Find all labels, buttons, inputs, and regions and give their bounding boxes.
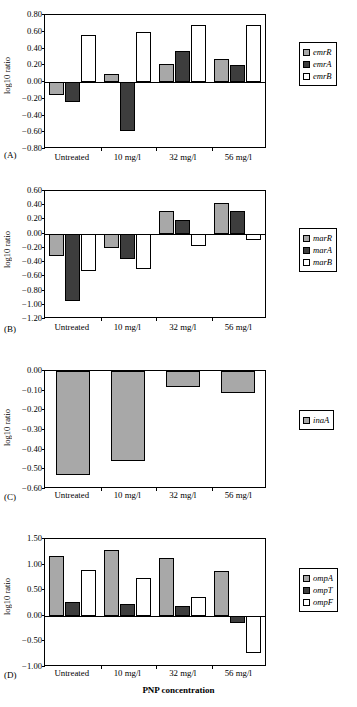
legend-label: ompF bbox=[313, 597, 333, 607]
legend: emrRemrAemrB bbox=[299, 42, 337, 86]
bar bbox=[65, 234, 80, 302]
y-tick-label: 0.40 bbox=[27, 199, 42, 209]
y-tick-mark bbox=[42, 131, 45, 132]
bar-group bbox=[45, 539, 100, 665]
y-tick-label: 0.20 bbox=[27, 59, 42, 69]
y-tick-label: −0.60 bbox=[22, 483, 42, 493]
y-tick-mark bbox=[42, 48, 45, 49]
legend-label: emrR bbox=[313, 47, 332, 57]
y-tick-mark bbox=[42, 449, 45, 450]
y-tick-mark bbox=[42, 615, 45, 616]
legend-item: marR bbox=[303, 232, 332, 244]
y-tick-label: −0.60 bbox=[22, 270, 42, 280]
y-tick-mark bbox=[42, 247, 45, 248]
chart-panel-c: log10 ratio0.00−0.10−0.20−0.30−0.40−0.50… bbox=[0, 356, 357, 524]
legend-item: ompT bbox=[303, 584, 333, 596]
y-tick-mark bbox=[42, 218, 45, 219]
legend-swatch-icon bbox=[303, 417, 310, 424]
plot-frame bbox=[44, 14, 266, 148]
legend-label: ompA bbox=[313, 573, 333, 583]
x-tick-label: Untreated bbox=[44, 668, 100, 678]
panel-letter: (C) bbox=[4, 492, 16, 502]
legend-label: marB bbox=[313, 257, 332, 267]
legend-item: emrR bbox=[303, 46, 332, 58]
x-tick-mark bbox=[101, 317, 102, 321]
y-tick-label: 0.00 bbox=[27, 365, 42, 375]
y-tick-label: −1.00 bbox=[22, 661, 42, 671]
x-tick-label: 56 mg/l bbox=[211, 322, 267, 332]
plot-frame bbox=[44, 538, 266, 666]
y-tick-mark bbox=[42, 429, 45, 430]
y-tick-mark bbox=[42, 370, 45, 371]
y-tick-label: −0.50 bbox=[22, 463, 42, 473]
y-tick-mark bbox=[42, 666, 45, 667]
x-tick-label: 56 mg/l bbox=[211, 152, 267, 162]
y-tick-label: −0.20 bbox=[22, 242, 42, 252]
x-axis-categories: Untreated10 mg/l32 mg/l56 mg/l bbox=[44, 322, 266, 332]
y-tick-label: −0.50 bbox=[22, 635, 42, 645]
y-tick-label: 0.00 bbox=[27, 610, 42, 620]
bar-group bbox=[45, 371, 100, 487]
legend-item: ompA bbox=[303, 572, 333, 584]
legend-label: marR bbox=[313, 233, 332, 243]
y-tick-label: −0.30 bbox=[22, 424, 42, 434]
bar bbox=[120, 82, 135, 131]
y-axis-ticks: 1.501.000.500.00−0.50−1.00 bbox=[8, 538, 44, 666]
y-tick-label: 1.00 bbox=[27, 559, 42, 569]
legend-label: inaA bbox=[313, 415, 329, 425]
y-tick-label: 0.60 bbox=[27, 26, 42, 36]
bar bbox=[159, 64, 174, 82]
y-tick-label: −0.40 bbox=[22, 110, 42, 120]
x-tick-mark bbox=[212, 317, 213, 321]
bar-group bbox=[155, 371, 210, 487]
x-axis-categories: Untreated10 mg/l32 mg/l56 mg/l bbox=[44, 152, 266, 162]
bar bbox=[65, 82, 80, 102]
x-tick-label: 10 mg/l bbox=[100, 490, 156, 500]
plot-area bbox=[44, 370, 266, 488]
bar bbox=[136, 234, 151, 270]
y-tick-label: 0.60 bbox=[27, 185, 42, 195]
x-tick-label: 10 mg/l bbox=[100, 152, 156, 162]
y-tick-mark bbox=[42, 409, 45, 410]
bar bbox=[65, 602, 80, 616]
y-tick-label: 1.50 bbox=[27, 533, 42, 543]
y-tick-label: −0.60 bbox=[22, 126, 42, 136]
bar bbox=[175, 51, 190, 82]
legend-item: emrA bbox=[303, 58, 332, 70]
x-tick-mark bbox=[156, 317, 157, 321]
y-tick-mark bbox=[42, 589, 45, 590]
bar-group bbox=[210, 539, 265, 665]
bar bbox=[159, 211, 174, 234]
bar-group bbox=[100, 15, 155, 147]
bar-group bbox=[155, 191, 210, 317]
bar-groups bbox=[45, 191, 265, 317]
bar bbox=[159, 558, 174, 616]
x-tick-mark bbox=[212, 147, 213, 151]
x-tick-label: 32 mg/l bbox=[155, 668, 211, 678]
bar bbox=[214, 203, 229, 234]
legend: ompAompTompF bbox=[299, 568, 338, 612]
bar bbox=[136, 578, 151, 616]
bar bbox=[136, 32, 151, 82]
y-axis-ticks: 0.600.400.200.00−0.20−0.40−0.60−0.80−1.0… bbox=[8, 190, 44, 318]
bar-group bbox=[155, 15, 210, 147]
y-axis-ticks: 0.800.600.400.200.00−0.20−0.40−0.60−0.80 bbox=[8, 14, 44, 148]
y-tick-mark bbox=[42, 204, 45, 205]
x-tick-label: Untreated bbox=[44, 322, 100, 332]
bar-group bbox=[210, 191, 265, 317]
legend-label: marA bbox=[313, 245, 332, 255]
x-tick-label: 32 mg/l bbox=[155, 490, 211, 500]
bar bbox=[104, 234, 119, 248]
y-tick-label: 0.20 bbox=[27, 213, 42, 223]
x-tick-label: 56 mg/l bbox=[211, 490, 267, 500]
y-tick-label: −1.20 bbox=[22, 313, 42, 323]
plot-frame bbox=[44, 190, 266, 318]
y-tick-label: 0.40 bbox=[27, 43, 42, 53]
bar bbox=[221, 371, 255, 393]
bar bbox=[104, 550, 119, 616]
legend-item: ompF bbox=[303, 596, 333, 608]
y-tick-mark bbox=[42, 564, 45, 565]
y-tick-label: 0.50 bbox=[27, 584, 42, 594]
y-tick-label: −0.20 bbox=[22, 93, 42, 103]
y-tick-mark bbox=[42, 64, 45, 65]
